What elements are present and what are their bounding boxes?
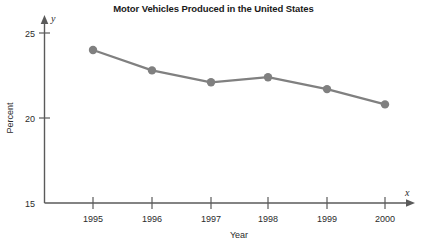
y-axis-variable-label: y bbox=[50, 13, 56, 24]
x-tick-label-1995: 1995 bbox=[83, 214, 103, 224]
x-axis-title: Year bbox=[230, 230, 248, 240]
data-point-1995 bbox=[89, 46, 97, 54]
data-line-percent bbox=[93, 50, 385, 104]
y-axis: y bbox=[41, 13, 56, 203]
y-tick-label-25: 25 bbox=[25, 29, 35, 39]
y-tick-group: 25 20 15 bbox=[25, 29, 50, 209]
x-axis-arrow-icon bbox=[406, 199, 415, 207]
x-tick-label-1996: 1996 bbox=[142, 214, 162, 224]
x-tick-label-1999: 1999 bbox=[317, 214, 337, 224]
x-axis-variable-label: x bbox=[404, 187, 410, 198]
data-point-1997 bbox=[207, 78, 215, 86]
y-tick-label-15: 15 bbox=[25, 199, 35, 209]
data-point-1998 bbox=[264, 73, 272, 81]
data-point-group bbox=[89, 46, 389, 109]
data-point-1996 bbox=[148, 66, 156, 74]
data-point-2000 bbox=[381, 100, 389, 108]
x-axis: x bbox=[45, 187, 416, 207]
data-point-1999 bbox=[323, 85, 331, 93]
line-chart-plot: y x 25 20 15 Percent 1995 1996 1997 bbox=[0, 0, 427, 242]
x-tick-group: 1995 1996 1997 1998 1999 2000 bbox=[83, 197, 395, 224]
y-tick-label-20: 20 bbox=[25, 114, 35, 124]
x-tick-label-2000: 2000 bbox=[375, 214, 395, 224]
y-axis-arrow-icon bbox=[41, 15, 49, 24]
x-tick-label-1998: 1998 bbox=[258, 214, 278, 224]
x-tick-label-1997: 1997 bbox=[201, 214, 221, 224]
chart-container: Motor Vehicles Produced in the United St… bbox=[0, 0, 427, 242]
y-axis-title: Percent bbox=[5, 102, 15, 134]
